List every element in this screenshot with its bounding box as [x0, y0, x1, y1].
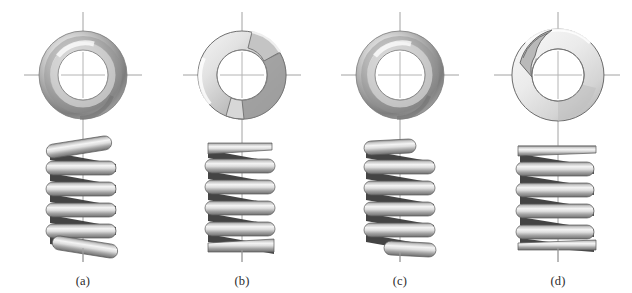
spring-panel-d: (d)	[474, 0, 632, 293]
spring-panel-c-graphic	[318, 0, 484, 293]
spring-panel-a: (a)	[0, 0, 166, 293]
spring-panel-a-graphic	[0, 0, 166, 293]
plain-end-side-view-a	[45, 135, 118, 259]
caption-c: (c)	[370, 274, 430, 289]
spring-panel-c: (c)	[318, 0, 484, 293]
squared-ground-end-side-view-d	[516, 146, 596, 252]
caption-a: (a)	[53, 274, 113, 289]
caption-d: (d)	[528, 274, 588, 289]
spring-panel-d-graphic	[474, 0, 632, 293]
caption-b: (b)	[212, 274, 272, 289]
spring-panel-b-graphic	[160, 0, 326, 293]
plain-ground-end-side-view-b	[205, 143, 275, 254]
figure-canvas: (a)	[0, 0, 632, 293]
spring-panel-b: (b)	[160, 0, 326, 293]
